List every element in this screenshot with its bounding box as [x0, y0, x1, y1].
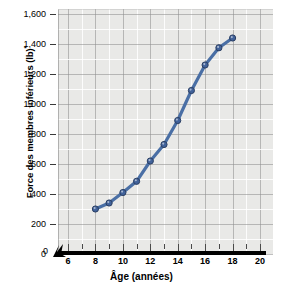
x-axis-tick-label: 18	[218, 256, 248, 266]
x-axis-ticks: 68101214161820	[0, 0, 283, 292]
x-axis-tick-mark	[246, 244, 247, 249]
x-axis-title: Âge (années)	[0, 271, 283, 282]
x-axis-tick-label: 6	[53, 256, 83, 266]
x-axis-tick-mark	[178, 244, 179, 251]
x-axis-tick-mark	[68, 244, 69, 251]
x-axis-tick-mark	[233, 244, 234, 251]
x-axis-tick-mark	[219, 244, 220, 249]
x-axis-tick-mark	[150, 244, 151, 251]
x-axis-tick-label: 14	[163, 256, 193, 266]
x-axis-tick-label: 20	[245, 256, 275, 266]
x-axis-tick-mark	[205, 244, 206, 251]
x-axis-tick-mark	[137, 244, 138, 249]
x-axis-tick-label: 12	[135, 256, 165, 266]
x-axis-tick-mark	[164, 244, 165, 249]
x-axis-tick-label: 10	[108, 256, 138, 266]
x-axis-tick-mark	[82, 244, 83, 249]
x-axis-tick-label: 8	[80, 256, 110, 266]
x-axis-tick-mark	[109, 244, 110, 249]
x-axis-tick-label: 16	[190, 256, 220, 266]
x-axis-tick-mark	[191, 244, 192, 249]
chart-figure: Force des membres inférieurs (lb)* 02004…	[0, 0, 283, 292]
x-axis-tick-mark	[95, 244, 96, 251]
x-axis-tick-mark	[123, 244, 124, 251]
x-axis-tick-mark	[260, 244, 261, 251]
